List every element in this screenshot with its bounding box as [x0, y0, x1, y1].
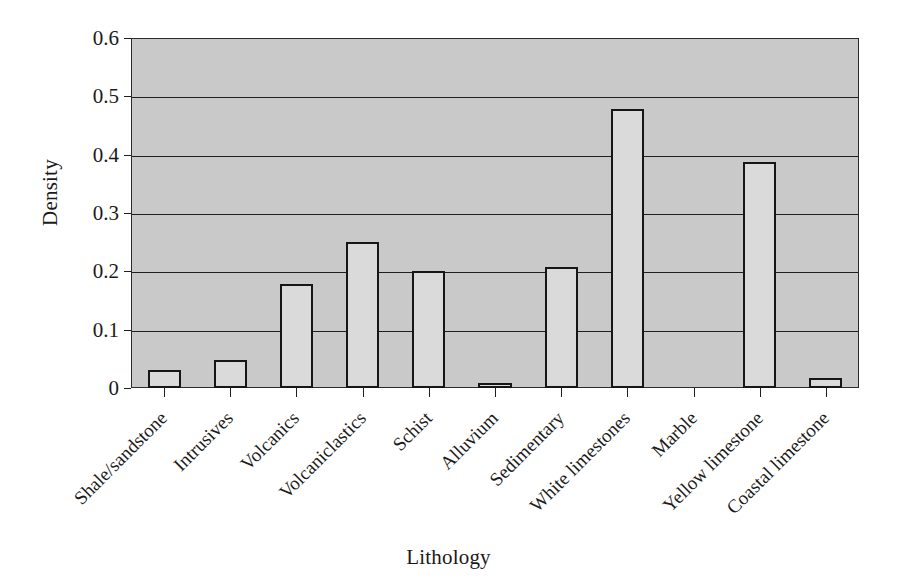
x-tick-mark — [760, 388, 761, 397]
x-tick-mark — [363, 388, 364, 397]
y-tick-label: 0.4 — [19, 142, 119, 167]
x-tick-mark — [627, 388, 628, 397]
gridline — [132, 272, 858, 273]
x-tick-mark — [826, 388, 827, 397]
x-tick-mark — [495, 388, 496, 397]
y-tick-mark — [124, 38, 131, 39]
y-axis-title: Density — [38, 113, 63, 273]
y-tick-label: 0 — [19, 376, 119, 401]
y-tick-label: 0.2 — [19, 259, 119, 284]
y-tick-label: 0.1 — [19, 317, 119, 342]
gridline — [132, 97, 858, 98]
y-tick-mark — [124, 388, 131, 389]
x-tick-mark — [429, 388, 430, 397]
x-axis-title: Lithology — [0, 545, 897, 570]
x-tick-mark — [230, 388, 231, 397]
y-tick-mark — [124, 155, 131, 156]
y-tick-label: 0.5 — [19, 84, 119, 109]
x-tick-mark — [561, 388, 562, 397]
y-tick-label: 0.6 — [19, 26, 119, 51]
gridline — [132, 214, 858, 215]
gridline — [132, 156, 858, 157]
y-tick-label: 0.3 — [19, 201, 119, 226]
y-tick-mark — [124, 96, 131, 97]
y-tick-mark — [124, 271, 131, 272]
bar-chart: Density 00.10.20.30.40.50.6 Shale/sandst… — [0, 0, 897, 584]
gridline — [132, 331, 858, 332]
x-tick-mark — [694, 388, 695, 397]
x-tick-mark — [296, 388, 297, 397]
y-tick-mark — [124, 213, 131, 214]
x-tick-mark — [164, 388, 165, 397]
plot-area — [131, 38, 859, 388]
y-tick-mark — [124, 330, 131, 331]
